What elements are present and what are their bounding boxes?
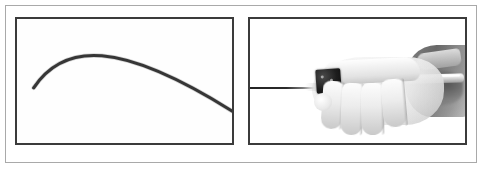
guidewire-curve-halo	[34, 55, 232, 111]
figure-root	[0, 0, 484, 172]
finger	[380, 78, 408, 128]
knuckle-highlight	[314, 93, 332, 111]
panel-gloved-hand-device	[248, 17, 467, 145]
panel-a-inner	[17, 19, 232, 143]
photograph-canvas	[250, 19, 465, 143]
guidewire-illustration	[17, 19, 232, 143]
panel-curved-guidewire	[15, 17, 234, 145]
hub-speck	[321, 75, 324, 78]
panel-b-inner	[250, 19, 465, 143]
